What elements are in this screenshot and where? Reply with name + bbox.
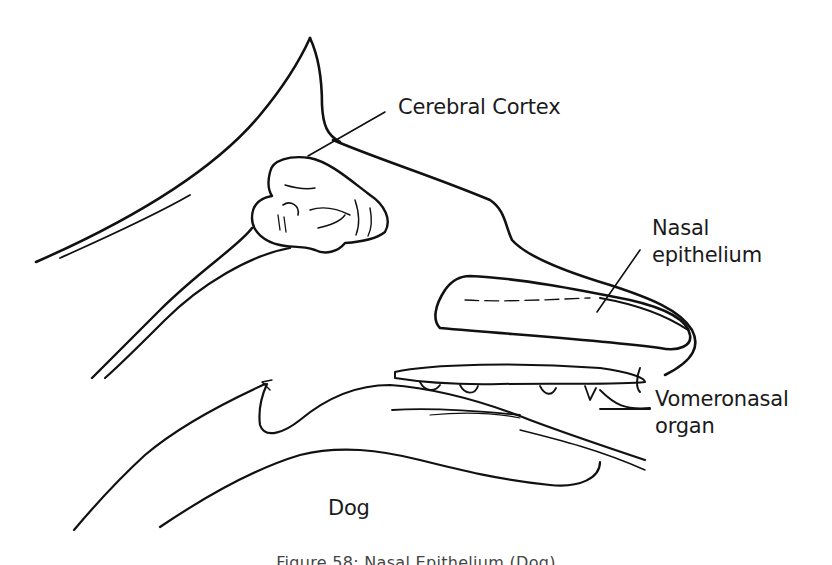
brain [92, 157, 388, 378]
figure-caption: Figure 58: Nasal Epithelium (Dog) [0, 553, 832, 565]
figure-canvas: Cerebral Cortex Nasal epithelium Vomeron… [0, 0, 832, 565]
label-dog: Dog [328, 495, 370, 522]
vomeronasal-organ-shape [395, 365, 650, 409]
label-vomeronasal-line2: organ [655, 413, 715, 440]
head-outline [36, 38, 695, 375]
dog-head-sketch [0, 0, 832, 565]
label-nasal-epithelium-line1: Nasal [652, 215, 709, 242]
label-vomeronasal-line1: Vomeronasal [655, 386, 789, 413]
label-nasal-epithelium-line2: epithelium [652, 242, 762, 269]
leader-line-cerebral-cortex [308, 112, 385, 156]
label-cerebral-cortex: Cerebral Cortex [398, 94, 560, 121]
nasal-epithelium-shape [435, 276, 690, 349]
